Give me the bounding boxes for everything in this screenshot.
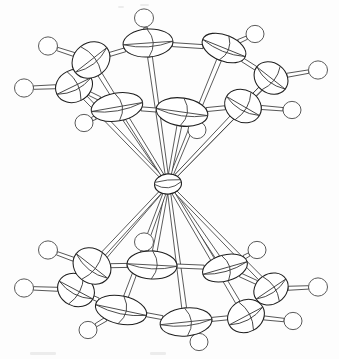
- ch-bond-H17: [33, 287, 57, 292]
- ring-bond-C5-C6: [141, 107, 156, 112]
- ortep-figure: [0, 0, 339, 359]
- hydrogen-atom-H6: [75, 114, 93, 131]
- hydrogen-atom-H7: [15, 79, 34, 97]
- ch-bond-H13: [288, 286, 309, 291]
- hydrogen-atom-H16: [79, 321, 97, 338]
- hydrogen-atom-H13: [309, 278, 328, 296]
- ch-bond-H7: [33, 85, 55, 90]
- scan-speck-1: [140, 4, 149, 6]
- hydrogen-atom-H8: [39, 37, 58, 55]
- scan-speck-0: [118, 6, 124, 8]
- hydrogen-atom-H14: [284, 312, 302, 329]
- hydrogen-atom-H11: [135, 233, 154, 251]
- ring-bond-C11-C12: [177, 264, 204, 269]
- scan-speck-3: [150, 352, 166, 355]
- hydrogen-atom-H15: [190, 333, 208, 350]
- hydrogen-atom-H2: [246, 25, 264, 42]
- hydrogen-atom-H4: [283, 101, 301, 118]
- hydrogen-atom-H3: [309, 61, 328, 79]
- scan-speck-2: [30, 352, 56, 355]
- hydrogen-atom-H12: [248, 241, 266, 258]
- ortep-canvas: [0, 0, 339, 359]
- hydrogen-atom-H17: [15, 279, 34, 297]
- ring-bond-C18-C11: [111, 263, 128, 267]
- hydrogen-atom-H18: [39, 241, 58, 259]
- hydrogen-atom-H1: [135, 9, 154, 27]
